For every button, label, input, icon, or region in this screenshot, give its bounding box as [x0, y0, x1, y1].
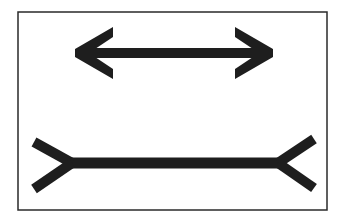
top-arrow-shaft [80, 48, 268, 58]
bottom-inward-fins-line [31, 135, 317, 193]
figure-frame [18, 12, 327, 210]
top-outward-arrow [75, 27, 273, 79]
bottom-line-shaft [70, 158, 280, 169]
muller-lyer-illusion [0, 0, 344, 222]
right-lower-fin [275, 159, 317, 192]
left-lower-fin [31, 159, 75, 193]
